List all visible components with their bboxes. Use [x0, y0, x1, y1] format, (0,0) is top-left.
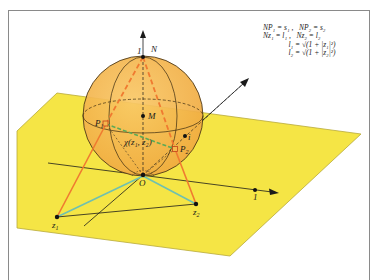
origin-point: [141, 173, 145, 177]
north-pole-point: [141, 55, 145, 59]
north-pole-label: N: [150, 44, 158, 54]
formula-line-4: l₂ = √(1 + |z₂|²): [263, 49, 361, 57]
center-point: [141, 114, 145, 118]
real-unit-label: 1: [253, 192, 258, 202]
z2-point: [194, 202, 198, 206]
vertical-axis-arrow-icon: [140, 30, 146, 38]
imaginary-axis-outer: [203, 83, 244, 120]
p2-point: [173, 147, 178, 152]
imag-unit-point: [183, 134, 187, 138]
north-tick-label: 1: [137, 46, 142, 56]
formula-box: NP₁ = s₁ , NP₂ = s₂ Nz₁ = l₁ , Nz₂ = l₂ …: [263, 24, 361, 58]
origin-label: O: [139, 178, 146, 188]
chordal-distance-label: χ(z₁, z₂): [123, 137, 152, 147]
z1-point: [55, 215, 59, 219]
p1-point: [103, 121, 108, 126]
center-label: M: [147, 111, 156, 121]
